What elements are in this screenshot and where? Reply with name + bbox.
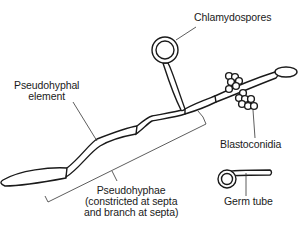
leader-line-blastoconidia xyxy=(253,110,255,138)
chlamydospore-icon xyxy=(152,37,178,63)
label-pseudohyphal-element: Pseudohyphal element xyxy=(14,80,79,102)
leader-line-septum xyxy=(198,111,203,117)
leader-line-pseudohyphal-element xyxy=(73,102,97,141)
germ-tube-icon xyxy=(218,170,272,188)
candida-morphology-diagram: Chlamydospores Pseudohyphal element Blas… xyxy=(0,0,303,227)
leader-line-chlamydospores xyxy=(176,27,196,40)
blastoconidia-cluster-icon xyxy=(226,73,258,110)
label-pseudohyphae: Pseudohyphae (constricted at septa and b… xyxy=(84,185,178,218)
leader-line-pseudohyphae xyxy=(112,171,117,181)
label-chlamydospores: Chlamydospores xyxy=(194,12,271,23)
label-pseudohyphal-element-line2: element xyxy=(14,91,79,102)
label-germ-tube: Germ tube xyxy=(224,196,273,207)
label-blastoconidia: Blastoconidia xyxy=(220,139,281,150)
label-pseudohyphae-line3: and branch at septa) xyxy=(84,207,178,218)
